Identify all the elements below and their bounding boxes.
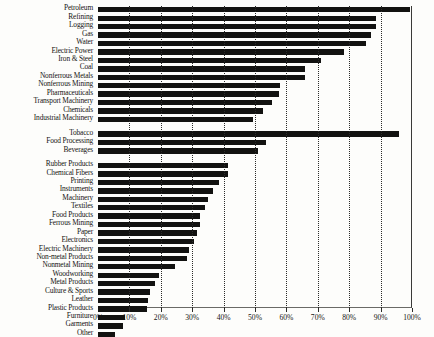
bar (98, 239, 194, 244)
bar (98, 264, 175, 269)
bar (98, 289, 150, 294)
category-label-row: Other (0, 331, 96, 337)
x-tick-label: 90% (374, 313, 388, 322)
x-tick-label: 20% (154, 313, 168, 322)
category-label: Other (77, 329, 93, 337)
bar (98, 230, 197, 235)
bar (98, 298, 148, 303)
category-label-row: Beverages (0, 147, 96, 155)
bar (98, 32, 371, 37)
tick-mark (349, 308, 350, 312)
gridline (192, 6, 193, 308)
bar (98, 306, 147, 311)
tick-mark (286, 308, 287, 312)
x-tick-label: 0% (93, 313, 103, 322)
bar (98, 247, 189, 252)
x-tick-label: 50% (248, 313, 262, 322)
bar (98, 332, 115, 337)
gridline (129, 6, 130, 308)
bar (98, 281, 155, 286)
bar (98, 180, 219, 185)
x-tick-label: 100% (403, 313, 421, 322)
bar (98, 100, 272, 105)
x-tick-label: 80% (342, 313, 356, 322)
bar (98, 108, 263, 113)
gridline (381, 6, 382, 308)
bar (98, 41, 366, 46)
bar (98, 117, 253, 122)
bar (98, 188, 213, 193)
bar (98, 140, 266, 145)
gridline (224, 6, 225, 308)
bar (98, 213, 200, 218)
gridline (286, 6, 287, 308)
bar (98, 83, 280, 88)
tick-mark (161, 308, 162, 312)
tick-mark (192, 308, 193, 312)
bar-chart: PetroleumRefiningLoggingGasWaterElectric… (0, 0, 434, 337)
bar (98, 131, 399, 136)
x-tick-label: 40% (217, 313, 231, 322)
bar (98, 24, 376, 29)
tick-mark (318, 308, 319, 312)
bar (98, 49, 344, 54)
bar (98, 171, 228, 176)
bar (98, 91, 279, 96)
bar (98, 58, 321, 63)
bar (98, 163, 228, 168)
tick-mark (381, 308, 382, 312)
x-tick-label: 70% (311, 313, 325, 322)
tick-mark (224, 308, 225, 312)
category-label: Beverages (64, 146, 93, 155)
x-axis-tick-labels: 0%10%20%30%40%50%60%70%80%90%100% (0, 313, 434, 327)
bar (98, 148, 258, 153)
bar (98, 222, 200, 227)
x-tick-label: 30% (185, 313, 199, 322)
bar-row (98, 331, 412, 337)
gridline (318, 6, 319, 308)
category-label: Industrial Machinery (34, 114, 93, 123)
x-tick-label: 60% (279, 313, 293, 322)
category-labels: PetroleumRefiningLoggingGasWaterElectric… (0, 6, 96, 308)
category-label-row: Industrial Machinery (0, 116, 96, 124)
tick-mark (412, 308, 413, 312)
gridline (161, 6, 162, 308)
bar (98, 256, 187, 261)
tick-mark (129, 308, 130, 312)
gridline (349, 6, 350, 308)
tick-mark (255, 308, 256, 312)
bar (98, 205, 205, 210)
gridline (255, 6, 256, 308)
bar (98, 16, 376, 21)
x-tick-label: 10% (122, 313, 136, 322)
